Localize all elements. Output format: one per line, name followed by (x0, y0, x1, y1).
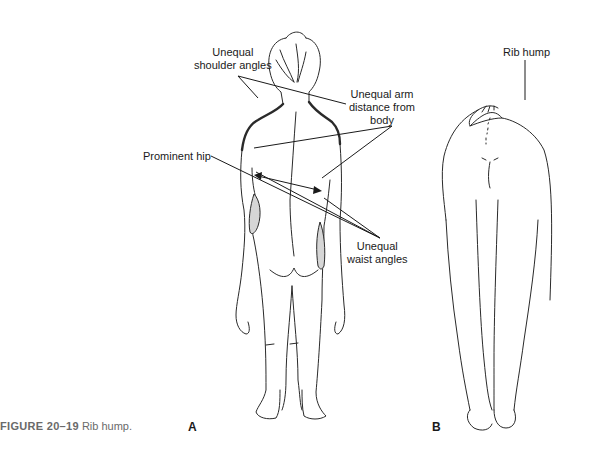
label-line: body (349, 114, 415, 127)
label-line: Unequal arm (349, 88, 415, 101)
label-rib-hump: Rib hump (503, 46, 550, 59)
label-line: shoulder angles (194, 59, 272, 72)
label-line: waist angles (347, 253, 408, 266)
figure-illustration (0, 0, 596, 456)
panel-letter-a: A (188, 420, 197, 434)
label-unequal-shoulder-angles: Unequal shoulder angles (194, 46, 272, 72)
label-unequal-arm-distance: Unequal arm distance from body (349, 88, 415, 127)
label-line: distance from (349, 101, 415, 114)
figure-caption: FIGURE 20–19 Rib hump. (0, 420, 132, 432)
label-prominent-hip: Prominent hip (143, 150, 211, 163)
caption-text: Rib hump. (82, 420, 132, 432)
caption-number: FIGURE 20–19 (0, 420, 79, 432)
label-line: Unequal (347, 240, 408, 253)
label-unequal-waist-angles: Unequal waist angles (347, 240, 408, 266)
panel-letter-b: B (432, 420, 441, 434)
label-line: Unequal (194, 46, 272, 59)
figure-rib-hump: Unequal shoulder angles Unequal arm dist… (0, 0, 596, 456)
figure-b-drawing (442, 60, 551, 430)
